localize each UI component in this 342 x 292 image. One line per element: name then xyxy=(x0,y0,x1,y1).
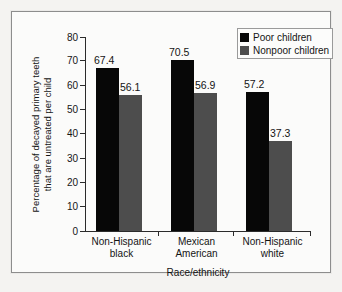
gray-square-swatch-icon xyxy=(240,46,249,55)
legend-label: Poor children xyxy=(253,32,312,43)
y-tick-label-20: 20 xyxy=(67,177,78,188)
x-axis-category-non-hispanic-black: Non-Hispanic black xyxy=(85,236,158,260)
legend-item-nonpoor-children[interactable]: Nonpoor children xyxy=(240,44,329,56)
category-label-line-1: Non-Hispanic xyxy=(235,236,310,248)
bar-poor-non-hispanic-black[interactable]: 67.4 xyxy=(96,68,119,231)
category-label-line-2: black xyxy=(85,248,158,260)
legend-label: Nonpoor children xyxy=(253,45,329,56)
bar-nonpoor-non-hispanic-black[interactable]: 56.1 xyxy=(119,95,142,231)
x-axis-category-non-hispanic-white: Non-Hispanic white xyxy=(235,236,310,260)
legend: Poor children Nonpoor children xyxy=(237,28,333,59)
x-axis-title: Race/ethnicity xyxy=(85,267,311,278)
y-tick-label-40: 40 xyxy=(67,128,78,139)
y-axis-title: Percentage of decayed primary teeth that… xyxy=(30,0,56,37)
figure: Percentage of decayed primary teeth that… xyxy=(0,0,342,292)
black-square-swatch-icon xyxy=(240,33,249,42)
y-tick-label-30: 30 xyxy=(67,153,78,164)
plot-area: 67.4 56.1 70.5 56.9 57.2 37.3 xyxy=(85,37,310,231)
bar-poor-non-hispanic-white[interactable]: 57.2 xyxy=(246,92,269,231)
bar-nonpoor-non-hispanic-white[interactable]: 37.3 xyxy=(269,141,292,232)
bar-poor-mexican-american[interactable]: 70.5 xyxy=(171,60,194,231)
y-tick-0 xyxy=(80,231,85,232)
legend-item-poor-children[interactable]: Poor children xyxy=(240,31,329,43)
y-tick-label-0: 0 xyxy=(72,226,78,237)
bar-value-label: 70.5 xyxy=(169,46,189,58)
category-label-line-2: white xyxy=(235,248,310,260)
y-tick-label-50: 50 xyxy=(67,104,78,115)
bar-nonpoor-mexican-american[interactable]: 56.9 xyxy=(194,93,217,231)
category-label-line-2: American xyxy=(160,248,233,260)
x-axis-separator-2 xyxy=(233,231,234,236)
figure-frame: Percentage of decayed primary teeth that… xyxy=(11,11,331,273)
y-tick-label-70: 70 xyxy=(67,55,78,66)
bar-value-label: 57.2 xyxy=(244,78,264,90)
x-axis-line xyxy=(85,231,311,232)
y-axis-title-line-2: that are untreated per child xyxy=(42,37,54,232)
x-axis-category-mexican-american: Mexican American xyxy=(160,236,233,260)
y-tick-label-80: 80 xyxy=(67,32,78,43)
y-tick-label-10: 10 xyxy=(67,201,78,212)
bar-value-label: 56.9 xyxy=(195,79,215,91)
category-label-line-1: Non-Hispanic xyxy=(85,236,158,248)
x-axis-separator-3 xyxy=(310,231,311,236)
x-axis-separator-1 xyxy=(158,231,159,236)
y-tick-label-60: 60 xyxy=(67,80,78,91)
bar-value-label: 37.3 xyxy=(270,127,290,139)
bar-value-label: 56.1 xyxy=(120,81,140,93)
category-label-line-1: Mexican xyxy=(160,236,233,248)
bar-value-label: 67.4 xyxy=(94,54,114,66)
y-axis-title-line-1: Percentage of decayed primary teeth xyxy=(30,37,42,232)
